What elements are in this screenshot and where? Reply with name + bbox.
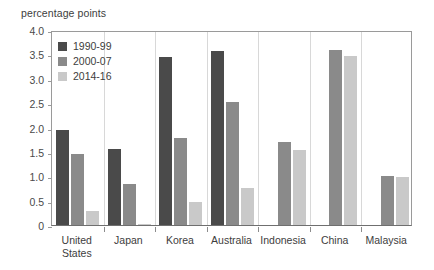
bar <box>86 211 99 225</box>
legend: 1990-992000-072014-16 <box>58 40 112 85</box>
legend-item[interactable]: 2014-16 <box>58 70 112 83</box>
bar <box>293 150 306 225</box>
bar <box>159 57 172 225</box>
x-axis-tick-label-line: Korea <box>166 234 194 247</box>
x-axis-tick-mark <box>207 227 208 232</box>
x-axis-tick-label: Korea <box>166 234 194 247</box>
bar <box>108 149 121 225</box>
y-axis-tick-label: 2.0 <box>29 123 51 134</box>
bar <box>71 154 84 225</box>
bar <box>138 224 151 225</box>
bar <box>396 177 409 225</box>
x-axis-tick-label-line: Indonesia <box>260 234 306 247</box>
x-axis-tick-label-line: United <box>62 234 92 247</box>
x-axis-tick-mark <box>258 227 259 232</box>
x-axis-tick-label-line: China <box>321 234 348 247</box>
bar <box>241 188 254 225</box>
y-axis-tick-label: 1.0 <box>29 172 51 183</box>
x-axis-tick-mark <box>104 227 105 232</box>
group-separator <box>207 32 208 225</box>
legend-swatch-icon <box>58 42 67 51</box>
bar <box>226 102 239 225</box>
bar <box>56 130 69 225</box>
x-axis-tick-label-line: States <box>62 247 92 260</box>
bar-chart: percentage points 4.03.53.02.52.01.51.00… <box>0 0 434 270</box>
bar <box>329 50 342 225</box>
y-axis-tick-label: 0.5 <box>29 196 51 207</box>
bar <box>381 176 394 225</box>
x-axis-tick-label-line: Australia <box>211 234 252 247</box>
y-axis-tick-label: 1.5 <box>29 148 51 159</box>
x-axis-tick-label: Japan <box>114 234 143 247</box>
y-axis-tick-label: 2.5 <box>29 99 51 110</box>
x-axis-tick-label-line: Malaysia <box>365 234 406 247</box>
y-axis-tick-label: 0 <box>38 221 51 232</box>
bar <box>344 56 357 225</box>
x-axis-tick-mark <box>155 227 156 232</box>
legend-swatch-icon <box>58 57 67 66</box>
group-separator <box>361 32 362 225</box>
group-separator <box>155 32 156 225</box>
bar <box>123 184 136 225</box>
y-axis-tick-label: 3.0 <box>29 75 51 86</box>
x-axis-tick-label: UnitedStates <box>62 234 92 259</box>
x-axis-tick-label: Indonesia <box>260 234 306 247</box>
group-separator <box>310 32 311 225</box>
bar <box>278 142 291 225</box>
x-axis-tick-label-line: Japan <box>114 234 143 247</box>
x-axis-tick-label: Australia <box>211 234 252 247</box>
legend-label: 2014-16 <box>73 71 112 82</box>
legend-item[interactable]: 2000-07 <box>58 55 112 68</box>
y-axis-tick-label: 3.5 <box>29 50 51 61</box>
x-axis-tick-mark <box>310 227 311 232</box>
legend-label: 2000-07 <box>73 56 112 67</box>
x-axis-tick-mark <box>361 227 362 232</box>
legend-label: 1990-99 <box>73 41 112 52</box>
y-axis-tick-label: 4.0 <box>29 26 51 37</box>
bar <box>211 51 224 225</box>
legend-item[interactable]: 1990-99 <box>58 40 112 53</box>
group-separator <box>258 32 259 225</box>
x-axis-tick-label: Malaysia <box>365 234 406 247</box>
bar <box>174 138 187 225</box>
x-axis-tick-label: China <box>321 234 348 247</box>
legend-swatch-icon <box>58 72 67 81</box>
y-axis-title: percentage points <box>21 7 106 19</box>
bar <box>189 202 202 225</box>
